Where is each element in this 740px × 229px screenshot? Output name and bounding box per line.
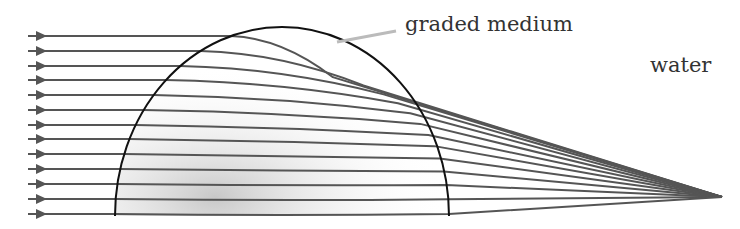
arrowhead-icon (36, 105, 47, 115)
ray-diagram (0, 0, 740, 229)
arrowhead-icon (36, 61, 47, 71)
graded-medium-label: graded medium (405, 12, 573, 36)
arrowhead-icon (36, 46, 47, 56)
arrowhead-icon (36, 90, 47, 100)
arrowhead-icon (36, 31, 47, 41)
graded-lens-diagram: graded medium water (0, 0, 740, 229)
arrowhead-icon (36, 209, 47, 219)
arrowhead-icon (36, 179, 47, 189)
water-label: water (650, 53, 711, 77)
label-pointer (337, 31, 396, 42)
arrowhead-icon (36, 75, 47, 85)
arrowhead-icon (36, 149, 47, 159)
arrowhead-icon (36, 120, 47, 130)
arrowhead-icon (36, 134, 47, 144)
arrowhead-icon (36, 194, 47, 204)
arrowhead-icon (36, 164, 47, 174)
